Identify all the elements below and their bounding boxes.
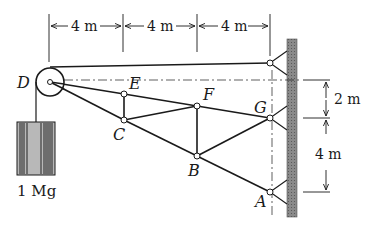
joint-label-c: C <box>113 125 125 144</box>
wall-supports <box>270 51 287 204</box>
truss-members <box>50 82 270 192</box>
weight-block <box>17 122 55 175</box>
dim-label-3: 4 m <box>221 18 248 34</box>
truss-figure: 4 m 4 m 4 m <box>0 0 372 229</box>
joint-label-a: A <box>253 192 267 211</box>
dim-label-2: 4 m <box>147 18 174 34</box>
dim-label-1: 4 m <box>71 18 98 34</box>
joint-label-g: G <box>254 98 267 117</box>
cable <box>50 63 270 67</box>
joint-label-b: B <box>187 161 200 180</box>
joint-label-d: D <box>16 73 30 92</box>
joint-label-f: F <box>202 85 215 104</box>
wall <box>287 39 297 217</box>
dim-label-vertical-top: 2 m <box>334 91 361 107</box>
joint-label-e: E <box>128 74 141 93</box>
dim-label-vertical-bottom: 4 m <box>315 146 342 162</box>
load-label: 1 Mg <box>17 182 57 200</box>
vertical-dimensions <box>303 80 330 192</box>
pulley-hub <box>48 80 53 85</box>
